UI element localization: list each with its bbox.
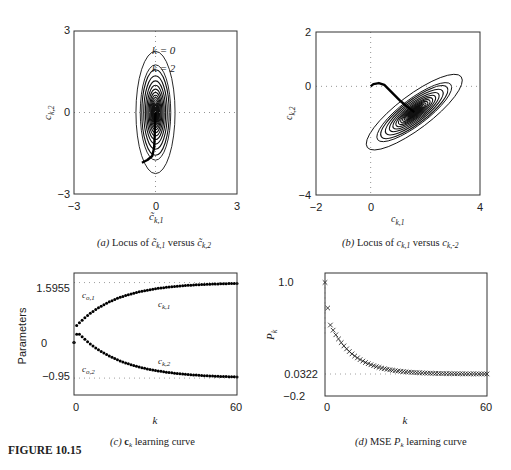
point-ck1 xyxy=(189,284,192,287)
point-ck1 xyxy=(225,282,228,285)
point-ck1 xyxy=(108,300,111,303)
caption-d: (d) MSE Pk learning curve xyxy=(355,436,467,449)
y-axis-label: Parameters xyxy=(16,307,28,364)
x-marker xyxy=(355,356,360,361)
point-ck1 xyxy=(105,302,108,305)
point-ck2 xyxy=(162,370,165,373)
point-ck1 xyxy=(97,306,100,309)
point-ck1 xyxy=(192,283,195,286)
point-ck2 xyxy=(168,371,171,374)
x-axis-label: k xyxy=(403,414,409,426)
point-ck1 xyxy=(173,285,176,288)
point-ck1 xyxy=(230,282,233,285)
plot-frame xyxy=(316,32,480,195)
x-marker xyxy=(336,337,341,342)
point-ck1 xyxy=(208,283,211,286)
point-ck1 xyxy=(181,284,184,287)
point-ck1 xyxy=(102,303,105,306)
point-ck2 xyxy=(208,374,211,377)
plot-frame xyxy=(325,273,487,396)
reference-lines xyxy=(325,282,487,374)
point-ck2 xyxy=(203,374,206,377)
point-ck1 xyxy=(143,289,146,292)
point-ck1 xyxy=(162,286,165,289)
contour-ellipses xyxy=(357,63,471,161)
point-ck1 xyxy=(165,286,168,289)
point-ck2 xyxy=(211,375,214,378)
point-ck2 xyxy=(132,364,135,367)
point-ck2 xyxy=(181,373,184,376)
point-ck2 xyxy=(94,346,97,349)
point-ck2 xyxy=(143,367,146,370)
y-tick-zero: 0 xyxy=(41,337,47,349)
point-ck1 xyxy=(113,298,116,301)
panel-c-learning-curve: 1.5955 0 −0.95 0 60 k Parameters co,1 co… xyxy=(16,273,242,449)
figure-label: FIGURE 10.15 xyxy=(8,444,81,456)
point-ck2 xyxy=(225,375,228,378)
point-ck1 xyxy=(200,283,203,286)
point-ck2 xyxy=(135,365,138,368)
point-ck1 xyxy=(116,297,119,300)
point-ck2 xyxy=(159,370,162,373)
point-ck2 xyxy=(230,375,233,378)
point-ck2 xyxy=(227,375,230,378)
y-tick-bottom: −3 xyxy=(57,188,70,200)
point-ck2 xyxy=(108,355,111,358)
point-ck2 xyxy=(173,372,176,375)
point-ck1 xyxy=(119,296,122,299)
y-tick-bottom: −4 xyxy=(298,189,311,201)
point-ck1 xyxy=(203,283,206,286)
x-marker xyxy=(352,354,357,359)
point-ck2 xyxy=(86,340,89,343)
caption-a: (a) Locus of c̃k,1 versus c̃k,2 xyxy=(97,237,211,250)
x-marker xyxy=(331,328,336,333)
point-ck1 xyxy=(222,282,225,285)
point-ck1 xyxy=(214,282,217,285)
x-tick-left: −3 xyxy=(68,200,81,212)
x-marker xyxy=(325,306,330,311)
point-ck2 xyxy=(116,358,119,361)
annotation-k2: k = 2 xyxy=(152,62,176,74)
point-ck2 xyxy=(170,371,173,374)
point-ck1 xyxy=(197,283,200,286)
point-ck2 xyxy=(216,375,219,378)
data-points xyxy=(323,280,490,376)
point-ck2 xyxy=(178,372,181,375)
point-ck2 xyxy=(75,333,78,336)
ref-label-co2: co,2 xyxy=(82,364,95,376)
point-ck2 xyxy=(176,372,179,375)
x-tick-left: 0 xyxy=(324,401,330,413)
point-ck1 xyxy=(211,283,214,286)
point-ck1 xyxy=(233,282,236,285)
point-ck1 xyxy=(149,288,152,291)
x-tick-zero: 0 xyxy=(368,201,374,213)
point-ck1 xyxy=(206,283,209,286)
point-ck1 xyxy=(157,287,160,290)
point-ck2 xyxy=(105,353,108,356)
x-tick-right: 60 xyxy=(480,401,492,413)
y-tick-zero: 0 xyxy=(64,106,70,118)
point-ck1 xyxy=(170,285,173,288)
point-ck1 xyxy=(154,287,157,290)
point-ck2 xyxy=(100,350,103,353)
y-tick-top: 1.0 xyxy=(278,276,293,288)
point-ck1 xyxy=(219,282,222,285)
point-ck2 xyxy=(149,368,152,371)
point-ck1 xyxy=(168,286,171,289)
caption-b: (b) Locus of ck,1 versus ck,-2 xyxy=(342,237,459,250)
point-ck1 xyxy=(100,305,103,308)
point-ck2 xyxy=(140,366,143,369)
x-axis-label: c̃k,1 xyxy=(149,210,163,225)
x-tick-left: 0 xyxy=(73,401,79,413)
point-ck2 xyxy=(81,335,84,338)
x-axis-label: k xyxy=(153,414,159,426)
point-ck2 xyxy=(113,357,116,360)
y-tick-top: 1.5955 xyxy=(36,282,70,294)
point-ck2 xyxy=(127,362,130,365)
point-ck1 xyxy=(81,319,84,322)
x-marker xyxy=(339,340,344,345)
point-ck1 xyxy=(130,292,133,295)
point-ck1 xyxy=(227,282,230,285)
x-tick-right: 4 xyxy=(477,201,483,213)
point-ck1 xyxy=(146,289,149,292)
